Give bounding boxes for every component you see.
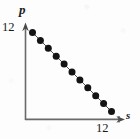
data-point <box>37 37 44 44</box>
data-point <box>100 100 107 107</box>
data-point <box>92 92 99 99</box>
x-axis-label: s <box>126 110 130 121</box>
plot-canvas <box>0 0 140 139</box>
data-point <box>45 45 52 52</box>
x-axis-tick-label-max: 12 <box>96 122 109 135</box>
data-point <box>76 76 83 83</box>
data-point <box>108 108 115 115</box>
data-point <box>69 69 76 76</box>
data-point <box>53 53 60 60</box>
data-point <box>61 61 68 68</box>
data-point <box>29 29 36 36</box>
data-point-group <box>29 29 115 115</box>
y-axis-tick-label-max: 12 <box>2 21 15 34</box>
y-axis-label: p <box>19 3 26 16</box>
data-point <box>84 84 91 91</box>
pressure-entropy-figure: p s 12 12 <box>0 0 140 139</box>
